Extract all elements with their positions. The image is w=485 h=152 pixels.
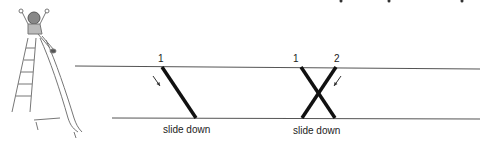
diagram-1-start-number: 1 <box>158 53 164 64</box>
top-guide-line <box>75 66 480 69</box>
child-on-slide-illustration <box>12 9 82 138</box>
diagram-2-start-number-2: 2 <box>334 53 340 64</box>
diagram-2-caption: slide down <box>293 125 340 136</box>
diagram-2-start-number-1: 1 <box>293 53 299 64</box>
top-dots <box>340 0 464 3</box>
diagram-1-caption: slide down <box>163 124 210 135</box>
diagram-1-stroke <box>153 67 196 118</box>
worksheet-canvas <box>0 0 485 152</box>
bottom-guide-line <box>112 118 480 119</box>
diagram-2-stroke <box>301 67 341 118</box>
